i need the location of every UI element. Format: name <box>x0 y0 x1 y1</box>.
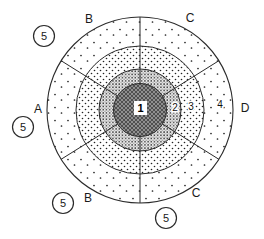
sector-label-c-top: C <box>186 11 195 25</box>
callout-5-left-label: 5 <box>20 121 26 133</box>
ring-label-4: 4 <box>217 99 223 110</box>
sector-label-b-top: B <box>85 12 93 26</box>
callout-5-bottom-center: 5 <box>156 208 177 229</box>
callout-5-bottom-left-label: 5 <box>60 197 66 209</box>
ring-label-2: 2 <box>172 102 178 113</box>
sector-label-d-right: D <box>241 101 250 115</box>
sector-label-c-bottom: C <box>192 186 201 200</box>
diagram-canvas: 1 2 3 4 B C A D B C 5 5 5 5 <box>0 0 264 239</box>
callout-5-bottom-center-label: 5 <box>163 212 169 224</box>
callout-5-top-left-label: 5 <box>41 30 47 42</box>
sector-label-b-bottom: B <box>84 191 92 205</box>
ring-label-1: 1 <box>137 102 143 114</box>
callout-5-top-left: 5 <box>34 26 55 47</box>
callout-5-bottom-left: 5 <box>53 193 74 214</box>
zone-diagram: 1 2 3 4 B C A D B C 5 5 5 5 <box>0 0 264 239</box>
ring-label-3: 3 <box>188 101 194 112</box>
sector-label-a-left: A <box>34 102 42 116</box>
callout-5-left: 5 <box>13 117 34 138</box>
